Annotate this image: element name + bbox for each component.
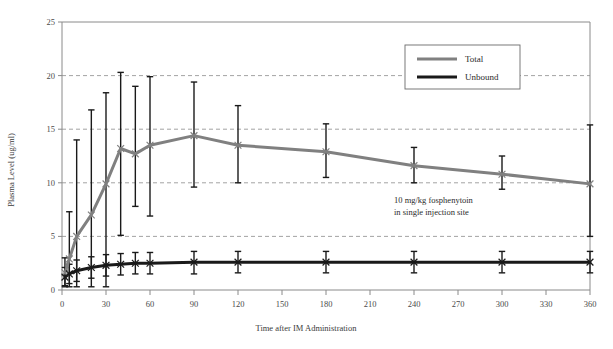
x-tick-label: 60 (146, 299, 155, 309)
annotation-line-1: 10 mg/kg fosphenytoin (394, 195, 474, 205)
y-tick-label: 15 (47, 124, 56, 134)
x-axis-title: Time after IM Administration (256, 323, 358, 333)
x-tick-label: 330 (540, 299, 553, 309)
x-tick-label: 150 (276, 299, 289, 309)
x-tick-label: 270 (452, 299, 465, 309)
plasma-level-chart-figure: 0510152025 03060901201501802102402703003… (0, 0, 613, 349)
y-tick-label: 20 (47, 71, 56, 81)
x-tick-label: 30 (102, 299, 111, 309)
x-tick-label: 90 (190, 299, 199, 309)
y-axis-ticks-group (58, 22, 62, 290)
x-axis-ticks-group (62, 290, 590, 295)
legend: Total Unbound (405, 45, 520, 89)
legend-label-unbound: Unbound (465, 72, 499, 82)
legend-box (405, 45, 520, 89)
x-tick-label: 300 (496, 299, 509, 309)
x-tick-label: 360 (584, 299, 597, 309)
x-tick-label: 210 (364, 299, 377, 309)
y-axis-tick-labels-group: 0510152025 (47, 17, 56, 295)
y-tick-label: 25 (47, 17, 56, 27)
legend-label-total: Total (465, 54, 484, 64)
x-tick-label: 180 (320, 299, 333, 309)
y-axis-title: Plasma Level (ug/ml) (6, 133, 16, 207)
annotation-line-2: in single injection site (394, 207, 469, 217)
y-tick-label: 10 (47, 178, 56, 188)
x-axis-tick-labels-group: 0306090120150180210240270300330360 (60, 299, 597, 309)
x-tick-label: 120 (232, 299, 245, 309)
x-tick-label: 0 (60, 299, 64, 309)
y-tick-label: 5 (51, 231, 55, 241)
chart-canvas: 0510152025 03060901201501802102402703003… (0, 0, 613, 349)
y-tick-label: 0 (51, 285, 55, 295)
x-tick-label: 240 (408, 299, 421, 309)
